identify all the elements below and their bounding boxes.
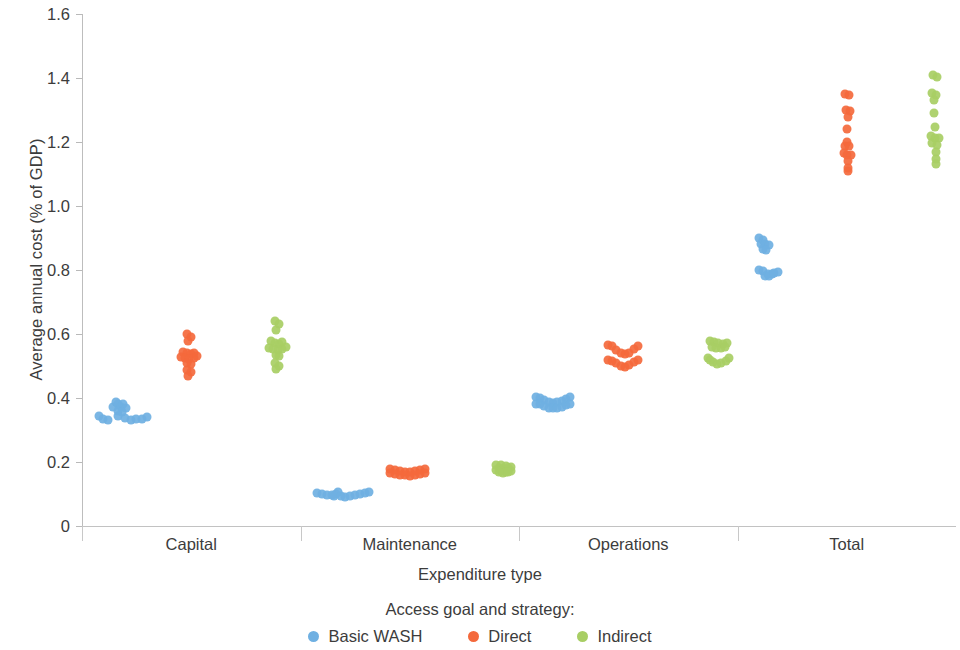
data-point	[705, 356, 714, 365]
y-tick-label: 1.2	[24, 133, 70, 152]
y-tick-label: 1.0	[24, 197, 70, 216]
legend-item-basic-wash[interactable]: Basic WASH	[308, 627, 422, 646]
data-point	[634, 355, 643, 364]
data-point	[725, 354, 734, 363]
scatter-chart: Average annual cost (% of GDP) 00.20.40.…	[0, 0, 960, 650]
data-point	[184, 371, 193, 380]
legend-item-direct[interactable]: Direct	[468, 627, 531, 646]
data-point	[762, 246, 771, 255]
data-point	[142, 413, 151, 422]
legend-items: Basic WASHDirectIndirect	[0, 627, 960, 646]
data-point	[272, 365, 281, 374]
data-point	[104, 415, 113, 424]
y-tick-label: 0.8	[24, 261, 70, 280]
y-tick-label: 0.6	[24, 325, 70, 344]
y-tick-label: 0.4	[24, 389, 70, 408]
data-point	[184, 337, 193, 346]
x-category-label: Total	[829, 535, 864, 554]
data-point	[843, 125, 852, 134]
data-point	[721, 343, 730, 352]
legend-title: Access goal and strategy:	[0, 600, 960, 619]
data-point	[774, 268, 783, 277]
data-point	[193, 352, 202, 361]
x-category-label: Capital	[166, 535, 217, 554]
x-category-divider	[301, 526, 302, 541]
legend-swatch-icon	[468, 631, 479, 642]
data-point	[930, 109, 939, 118]
y-tick-label: 0	[24, 517, 70, 536]
legend-label: Basic WASH	[328, 627, 422, 646]
data-point	[272, 326, 281, 335]
legend-swatch-icon	[577, 631, 588, 642]
legend-swatch-icon	[308, 631, 319, 642]
chart-legend: Access goal and strategy: Basic WASHDire…	[0, 600, 960, 646]
data-point	[844, 167, 853, 176]
legend-label: Indirect	[597, 627, 651, 646]
data-point	[281, 343, 290, 352]
plot-area	[82, 14, 956, 526]
x-axis-title: Expenditure type	[0, 565, 960, 584]
x-category-label: Operations	[588, 535, 669, 554]
data-point	[932, 73, 941, 82]
data-point	[844, 113, 853, 122]
x-category-label: Maintenance	[363, 535, 457, 554]
y-tick-label: 0.2	[24, 453, 70, 472]
legend-item-indirect[interactable]: Indirect	[577, 627, 651, 646]
data-point	[566, 399, 575, 408]
y-tick-label: 1.6	[24, 5, 70, 24]
y-tick-label: 1.4	[24, 69, 70, 88]
data-point	[364, 488, 373, 497]
data-point	[930, 122, 939, 131]
legend-label: Direct	[488, 627, 531, 646]
data-point	[421, 469, 430, 478]
data-point	[929, 96, 938, 105]
x-category-divider	[519, 526, 520, 541]
x-category-divider	[738, 526, 739, 541]
data-point	[504, 467, 513, 476]
x-axis-origin-tick	[82, 526, 83, 541]
data-point	[931, 159, 940, 168]
data-point	[845, 90, 854, 99]
data-point	[634, 342, 643, 351]
